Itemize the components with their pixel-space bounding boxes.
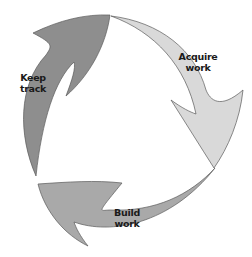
acquire-work-arrow — [111, 16, 243, 168]
acquire-work-label: Acquire work — [177, 51, 219, 73]
build-work-label-line2: work — [109, 218, 145, 229]
build-work-label-line1: Build — [109, 207, 145, 218]
keep-track-label: Keep track — [18, 72, 48, 94]
keep-track-label-line2: track — [18, 83, 48, 94]
build-work-label: Build work — [109, 207, 145, 229]
acquire-work-label-line2: work — [177, 62, 219, 73]
keep-track-label-line1: Keep — [18, 72, 48, 83]
acquire-work-label-line1: Acquire — [177, 51, 219, 62]
keep-track-arrow — [24, 15, 110, 176]
